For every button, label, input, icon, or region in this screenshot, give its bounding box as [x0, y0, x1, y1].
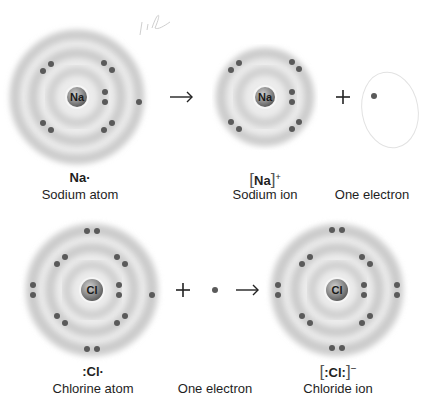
- electron-label-bottom: One electron: [178, 381, 252, 396]
- sodium-ion-charge: +: [275, 172, 280, 182]
- chlorine-atom-label: Chlorine atom: [53, 381, 134, 396]
- free-electron: [371, 93, 377, 99]
- handwritten-oval: [356, 68, 424, 153]
- nucleus-symbol-cl-ion: Cl: [332, 285, 343, 296]
- nucleus-symbol-na: Na: [70, 92, 84, 103]
- plus-icon: [336, 90, 350, 104]
- chloride-ion-formula: [:Cl:]−: [320, 362, 357, 382]
- sodium-atom-label: Sodium atom: [42, 187, 119, 202]
- chlorine-atom-formula: :Cl·: [82, 364, 104, 379]
- sodium-atom-formula: Na·: [70, 170, 91, 185]
- electron-label-top: One electron: [335, 187, 409, 202]
- ion-formation-diagram: [0, 0, 434, 410]
- free-electron: [212, 287, 218, 293]
- chloride-ion-charge: −: [351, 363, 357, 374]
- reaction-arrow-icon: [236, 285, 258, 295]
- nucleus-symbol-cl: Cl: [87, 285, 98, 296]
- sodium-ion-symbol: Na: [254, 173, 271, 188]
- nucleus-symbol-na-ion: Na: [258, 92, 272, 103]
- reaction-arrow-icon: [170, 92, 192, 102]
- chloride-ion-symbol: :Cl:: [324, 365, 346, 380]
- sodium-ion-label: Sodium ion: [232, 187, 297, 202]
- plus-icon: [176, 283, 190, 297]
- handwritten-note: [140, 15, 170, 35]
- chloride-ion-label: Chloride ion: [303, 381, 372, 396]
